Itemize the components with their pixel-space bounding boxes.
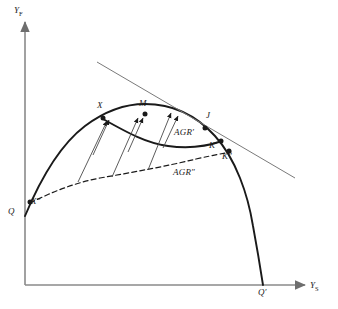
curve-label-AGR-double-prime: AGR″ (173, 168, 195, 177)
axis-group (25, 22, 305, 285)
diagram-svg (0, 0, 338, 309)
point-label-M: M (139, 99, 147, 108)
point-label-K-double-prime: K″ (222, 152, 232, 161)
transfer-arrow-4 (93, 120, 109, 155)
y-axis-label: YF (14, 6, 23, 17)
point-dot-J (203, 126, 208, 131)
point-label-K-prime: K′ (209, 141, 217, 150)
point-dot-X (101, 116, 106, 121)
tangent-price-line (97, 62, 295, 178)
point-dot-M (143, 112, 148, 117)
point-label-Q-prime: Q′ (258, 288, 266, 297)
x-axis-subscript: S (315, 285, 319, 292)
x-axis-label: YS (310, 281, 319, 292)
diagram-canvas: YF YS Q Q′ X″ X M J K′ K″ AGR′ AGR″ (0, 0, 338, 309)
y-axis-subscript: F (19, 10, 23, 17)
transfer-arrow-1 (78, 121, 107, 182)
ppf-curve (25, 104, 263, 285)
point-label-Q: Q (8, 207, 15, 216)
agr-double-prime-curve (30, 152, 231, 203)
curve-label-AGR-prime: AGR′ (174, 128, 194, 137)
point-label-J: J (206, 111, 210, 120)
transfer-arrows (78, 113, 178, 182)
point-dot-Kp (219, 139, 224, 144)
point-label-X: X (97, 101, 103, 110)
point-label-X-double-prime: X″ (31, 197, 40, 206)
